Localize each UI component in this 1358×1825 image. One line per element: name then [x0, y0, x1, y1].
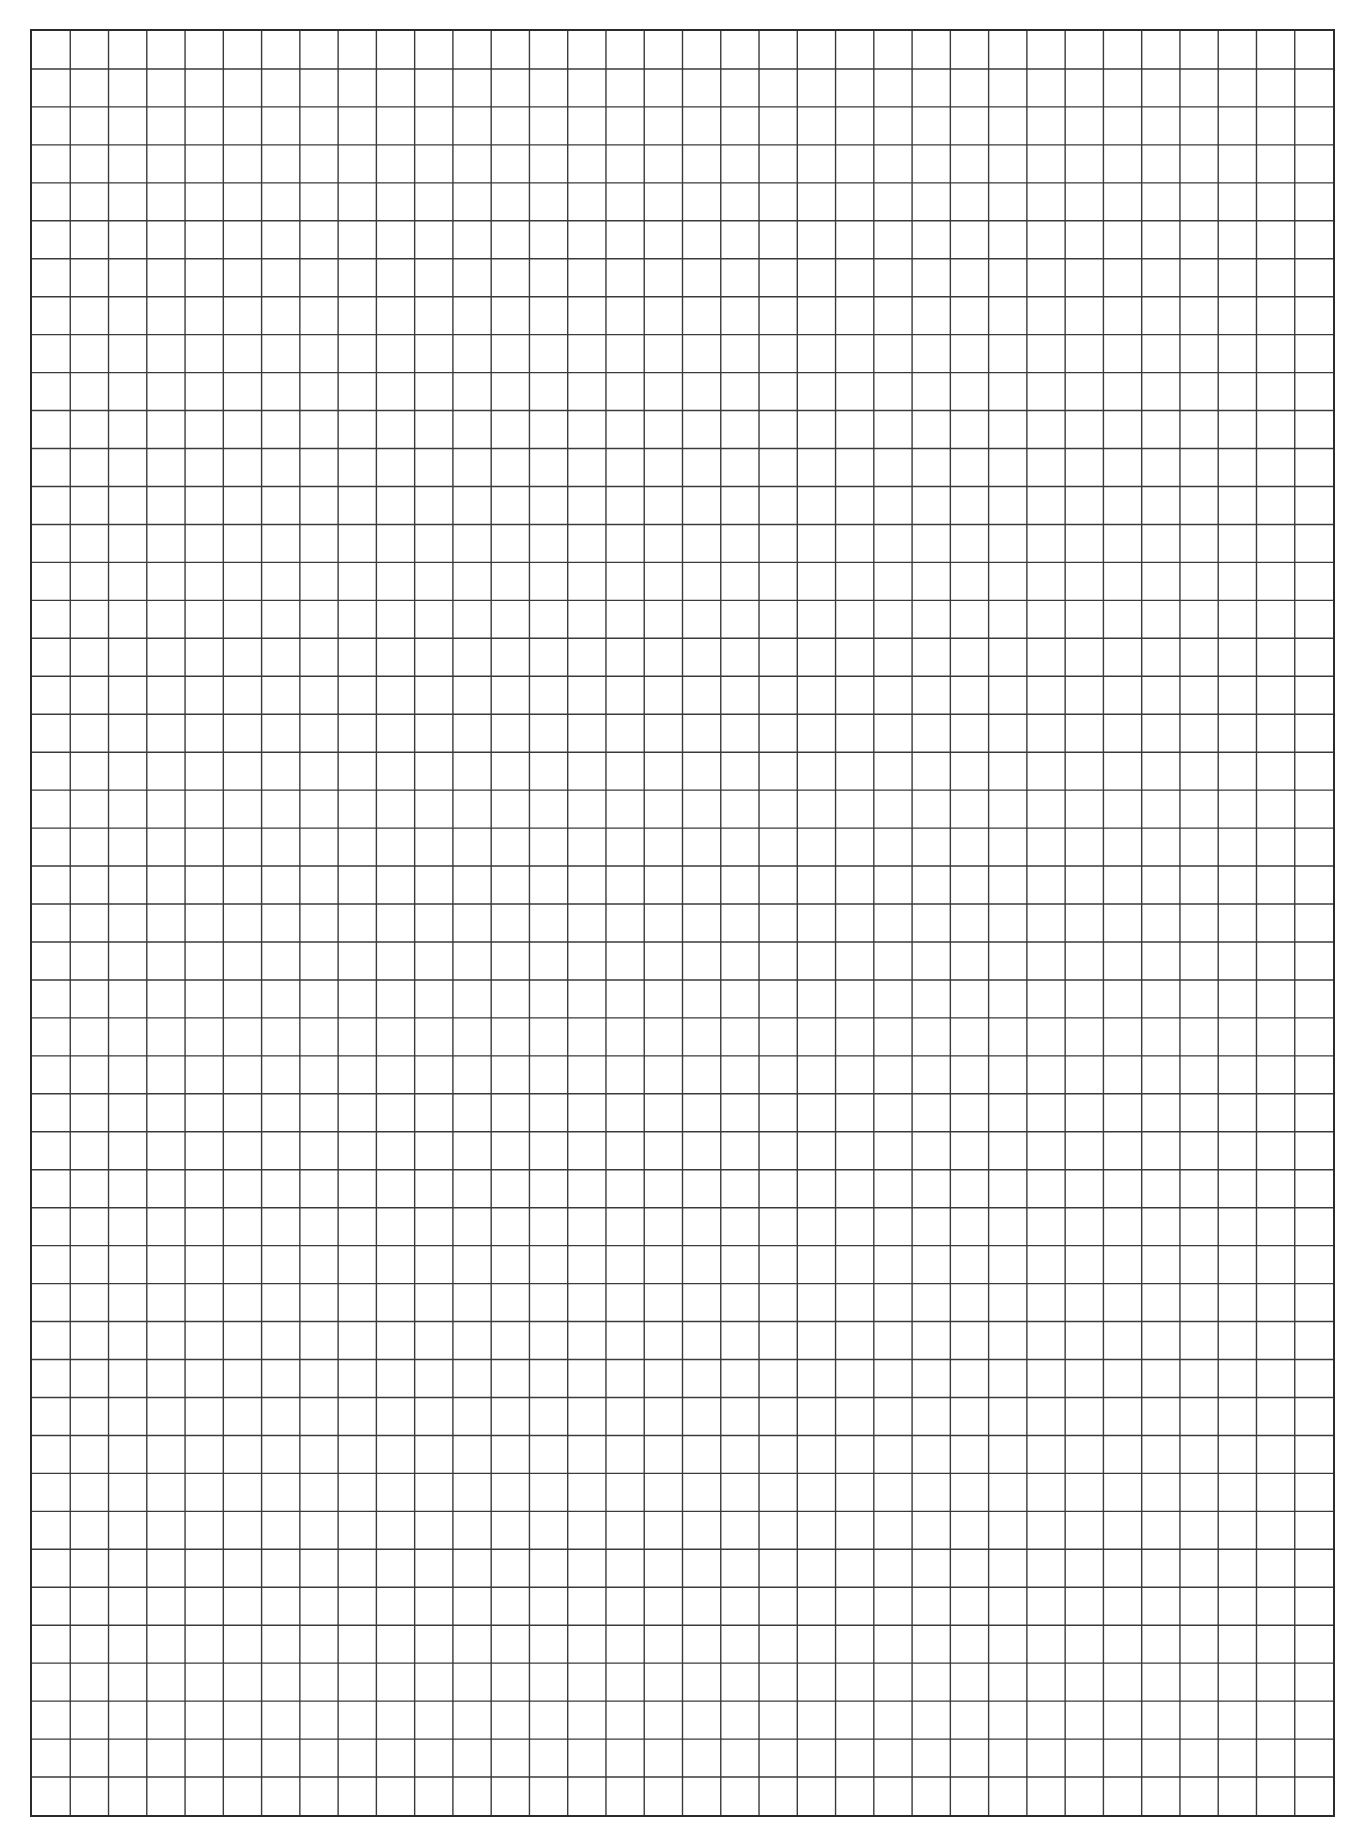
grid-lines	[32, 31, 1333, 1815]
grid-area	[30, 29, 1335, 1817]
graph-paper-sheet	[0, 0, 1358, 1825]
